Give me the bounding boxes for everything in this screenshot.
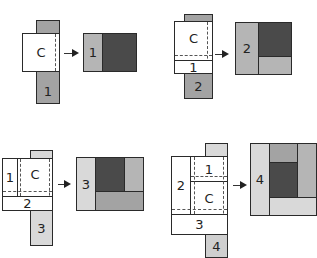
- step4-strip-4: 4: [205, 234, 228, 258]
- step1-seam-line: [55, 34, 56, 71]
- step4-seam-horizontal-bottom: [172, 209, 227, 210]
- step4-strip-prev-label: 3: [195, 217, 203, 232]
- step2-strip-1: 1: [174, 60, 213, 74]
- step4-strip-2: 2: [171, 156, 191, 215]
- step4-strip-3: 3: [171, 214, 228, 235]
- step2-result-center: [258, 22, 292, 57]
- step4-result-strip: 4: [250, 143, 270, 216]
- step1-result-center: [102, 33, 137, 72]
- step3-result-bottom-strip: [95, 191, 144, 211]
- step2-strip-label: 2: [194, 79, 202, 94]
- step4-result-bottom-strip: [269, 197, 317, 216]
- step3-seam-horizontal: [3, 191, 52, 192]
- step4-result-right-strip: [297, 143, 317, 198]
- step4-result-center: [269, 162, 298, 198]
- step3-strip-3: 3: [30, 210, 53, 246]
- step4-result-top-strip: [269, 143, 298, 163]
- step3-result-right-strip: [124, 157, 144, 192]
- step4-seam-horizontal-top: [191, 176, 227, 177]
- step3-strip-left-label: 1: [6, 170, 14, 185]
- step3-result-center: [95, 157, 125, 192]
- step2-strip-2: 2: [184, 73, 213, 99]
- step3-strip-label: 3: [37, 221, 45, 236]
- step4-strip-top: [205, 143, 228, 157]
- step4-strip-label: 4: [212, 239, 220, 254]
- step4-arrow-icon: [240, 181, 247, 189]
- step1-arrow-icon: [72, 49, 79, 57]
- step1-result-strip: 1: [83, 33, 103, 72]
- step4-strip-top-label: 1: [205, 162, 213, 177]
- step3-strip-2: 2: [2, 196, 53, 211]
- step3-arrow-icon: [64, 180, 71, 188]
- step2-center-label: C: [189, 31, 198, 46]
- step4-seam-vertical-left: [194, 157, 195, 214]
- step2-result-strip: 2: [235, 22, 259, 75]
- step2-result-label: 2: [243, 41, 251, 56]
- step4-result-label: 4: [256, 172, 264, 187]
- step1-strip-label: 1: [44, 84, 52, 99]
- step3-center-label: C: [30, 167, 39, 182]
- step2-arrow-icon: [222, 50, 229, 58]
- step1-strip-1: 1: [36, 71, 60, 104]
- step4-strip-left-label: 2: [177, 178, 185, 193]
- step1-result-label: 1: [89, 45, 97, 60]
- step3-strip-prev-label: 2: [23, 196, 31, 211]
- step3-result-label: 3: [82, 177, 90, 192]
- step3-result-strip: 3: [76, 157, 96, 211]
- step1-strip-top: [36, 20, 60, 34]
- step2-result-prev-strip: [258, 56, 292, 75]
- step1-center-label: C: [36, 45, 45, 60]
- step4-center-label: C: [204, 191, 213, 206]
